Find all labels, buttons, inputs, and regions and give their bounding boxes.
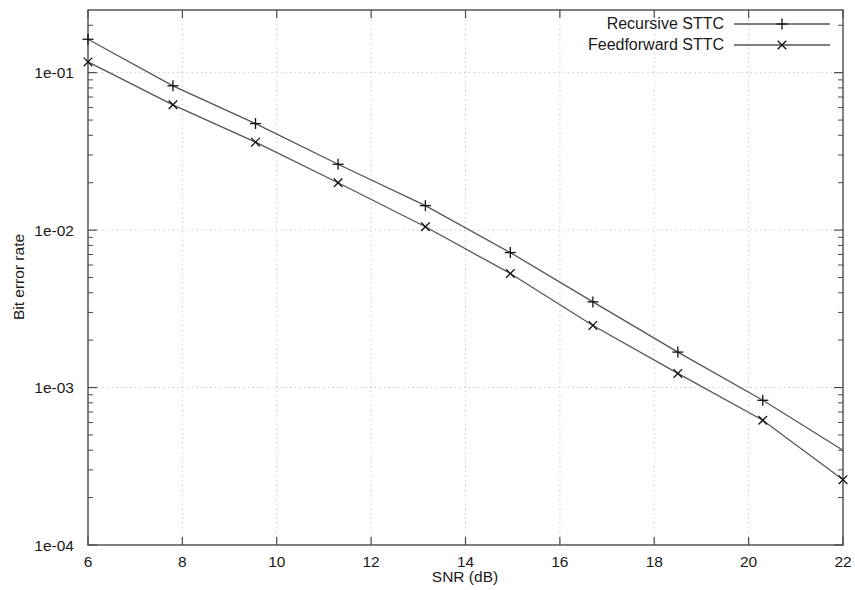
data-point-marker	[674, 369, 683, 378]
data-point-marker	[505, 247, 516, 258]
y-tick-label: 1e-02	[34, 222, 74, 239]
data-series	[83, 34, 848, 484]
data-point-marker	[251, 138, 260, 147]
data-point-marker	[587, 296, 598, 307]
legend-label: Feedforward STTC	[588, 36, 724, 53]
y-tick-label: 1e-04	[34, 537, 74, 554]
y-axis-title: Bit error rate	[10, 234, 27, 320]
data-point-marker	[83, 34, 94, 45]
data-point-marker	[333, 159, 344, 170]
bit-error-rate-plot: 6810121416182022 1e-011e-021e-031e-04 Re…	[0, 0, 855, 590]
x-tick-label: 10	[268, 553, 286, 570]
data-point-marker	[420, 200, 431, 211]
chart-legend: Recursive STTCFeedforward STTC	[588, 15, 830, 53]
data-point-marker	[672, 347, 683, 358]
data-point-marker	[777, 19, 788, 30]
x-tick-label: 8	[178, 553, 187, 570]
data-point-marker	[421, 222, 430, 231]
x-tick-label: 6	[84, 553, 93, 570]
x-tick-label: 18	[646, 553, 663, 570]
data-point-marker	[757, 395, 768, 406]
x-axis-title: SNR (dB)	[432, 568, 498, 585]
data-point-marker	[250, 118, 261, 129]
data-point-marker	[589, 321, 598, 330]
series-line	[88, 62, 843, 480]
x-tick-label: 20	[740, 553, 758, 570]
data-point-marker	[169, 101, 178, 110]
grid-lines	[88, 10, 843, 545]
chart-figure: 6810121416182022 1e-011e-021e-031e-04 Re…	[0, 0, 855, 590]
x-tick-label: 12	[363, 553, 380, 570]
x-tick-label: 22	[834, 553, 851, 570]
series-line	[88, 39, 843, 450]
data-point-marker	[334, 178, 343, 187]
y-axis-tick-labels: 1e-011e-021e-031e-04	[34, 64, 74, 553]
data-point-marker	[758, 416, 767, 425]
y-tick-label: 1e-03	[34, 379, 74, 396]
y-tick-label: 1e-01	[34, 64, 74, 81]
legend-label: Recursive STTC	[607, 15, 724, 32]
x-tick-label: 16	[551, 553, 568, 570]
data-point-marker	[167, 80, 178, 91]
data-point-marker	[506, 269, 515, 278]
